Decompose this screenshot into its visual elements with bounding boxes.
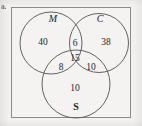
venn-diagram-screenshot: a. M C S 40 38 6 15 8 10 10 bbox=[0, 0, 142, 126]
set-label-s: S bbox=[73, 101, 79, 112]
set-label-c: C bbox=[97, 13, 104, 24]
set-label-m: M bbox=[48, 13, 58, 24]
region-value-s-only: 10 bbox=[70, 83, 80, 93]
region-value-m-only: 40 bbox=[38, 37, 48, 47]
venn-diagram-figure: M C S 40 38 6 15 8 10 10 bbox=[0, 0, 142, 126]
region-value-c-only: 38 bbox=[101, 37, 111, 47]
region-value-m-and-c-and-s: 15 bbox=[70, 53, 80, 63]
region-value-m-and-c-only: 6 bbox=[73, 38, 78, 48]
region-value-c-and-s-only: 10 bbox=[86, 62, 96, 72]
region-value-m-and-s-only: 8 bbox=[59, 62, 64, 72]
